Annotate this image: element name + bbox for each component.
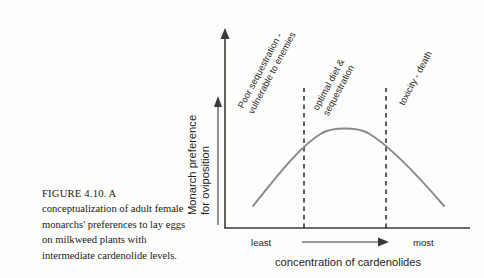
- y-axis-title: Monarch preference for oviposition: [186, 115, 211, 215]
- x-tick-label-most: most: [413, 237, 434, 248]
- chart-figure: least most concentration of cardenolides…: [0, 0, 484, 278]
- y-axis-title-line1: Monarch preference: [186, 115, 198, 215]
- x-tick-label-least: least: [251, 237, 272, 248]
- zone-label-optimal-diet: optimal diet & sequestration: [311, 57, 357, 118]
- zone-label-toxicity-death-line1: toxicity - death: [397, 49, 434, 107]
- preference-curve: [253, 129, 444, 207]
- x-direction-arrow: [302, 238, 389, 247]
- y-axis-measure-arrow: [214, 96, 222, 225]
- y-axis-title-line2: for oviposition: [199, 146, 211, 215]
- zone-label-poor-sequestration: Poor sequestration - vulnerable to enemi…: [236, 25, 298, 116]
- x-axis-title: concentration of cardenolides: [275, 256, 422, 268]
- y-axis: [221, 28, 230, 228]
- zone-label-toxicity-death: toxicity - death: [397, 49, 434, 107]
- figure-page: FIGURE 4.10. A conceptualization of adul…: [0, 0, 484, 278]
